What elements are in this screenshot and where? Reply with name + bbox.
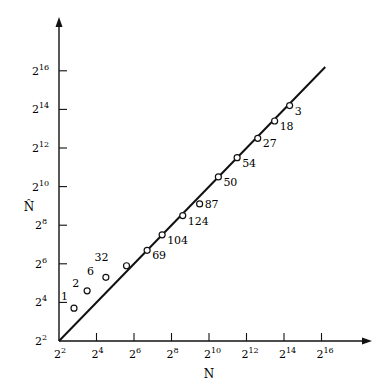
- circle-marker-icon: [215, 174, 221, 180]
- x-tick-label: 22: [54, 346, 66, 361]
- y-tick-label: 22: [35, 333, 47, 348]
- point-label: 104: [167, 234, 188, 247]
- data-point: 32: [95, 251, 130, 269]
- point-label: 27: [263, 137, 277, 150]
- circle-marker-icon: [234, 155, 240, 161]
- y-tick-label: 214: [32, 101, 49, 116]
- data-points: 126326910412487505427183: [61, 103, 302, 312]
- point-label: 124: [188, 215, 209, 228]
- circle-marker-icon: [103, 274, 109, 280]
- y-tick-label: 210: [32, 179, 49, 194]
- circle-marker-icon: [287, 103, 293, 109]
- x-tick-label: 216: [317, 346, 334, 361]
- data-point: 69: [144, 247, 166, 262]
- point-label: 87: [205, 198, 219, 211]
- circle-marker-icon: [159, 232, 165, 238]
- y-tick-label: 216: [32, 63, 49, 78]
- point-label: 69: [152, 249, 166, 262]
- data-point: 104: [159, 232, 188, 247]
- data-point: 1: [61, 290, 77, 311]
- point-label: 54: [242, 157, 256, 170]
- y-tick-label: 212: [32, 140, 49, 155]
- point-label: 18: [280, 120, 294, 133]
- circle-marker-icon: [84, 288, 90, 294]
- data-point: 2: [72, 277, 90, 294]
- x-axis-title: N: [204, 367, 215, 381]
- x-tick-label: 214: [279, 346, 296, 361]
- reference-line: [59, 67, 325, 341]
- data-point: 27: [255, 135, 277, 150]
- point-label: 1: [61, 290, 68, 303]
- point-label: 6: [87, 265, 94, 278]
- data-point: 6: [87, 265, 109, 280]
- data-point: 3: [287, 103, 302, 118]
- point-label: 3: [295, 105, 302, 118]
- x-tick-label: 26: [129, 346, 141, 361]
- y-tick-label: 28: [35, 217, 47, 232]
- y-axis-title: N̂: [24, 199, 35, 214]
- circle-marker-icon: [180, 213, 186, 219]
- x-tick-label: 24: [92, 346, 104, 361]
- circle-marker-icon: [197, 201, 203, 207]
- data-point: 50: [215, 174, 237, 189]
- point-label: 32: [95, 251, 109, 264]
- data-point: 124: [180, 213, 209, 228]
- y-tick-label: 26: [35, 256, 47, 271]
- x-tick-label: 210: [204, 346, 221, 361]
- x-tick-label: 212: [242, 346, 259, 361]
- x-tick-label: 28: [167, 346, 179, 361]
- circle-marker-icon: [144, 247, 150, 253]
- circle-marker-icon: [71, 305, 77, 311]
- data-point: 18: [272, 118, 294, 133]
- scatter-chart: 2222242426262828210210212212214214216216…: [0, 0, 382, 389]
- y-tick-label: 24: [35, 294, 47, 309]
- circle-marker-icon: [272, 118, 278, 124]
- x-axis-arrow-icon: [362, 338, 372, 345]
- y-axis-arrow-icon: [56, 17, 63, 27]
- data-point: 54: [234, 155, 256, 170]
- circle-marker-icon: [255, 135, 261, 141]
- point-label: 50: [223, 176, 237, 189]
- point-label: 2: [72, 277, 79, 290]
- circle-marker-icon: [124, 263, 130, 269]
- data-point: 87: [197, 198, 219, 211]
